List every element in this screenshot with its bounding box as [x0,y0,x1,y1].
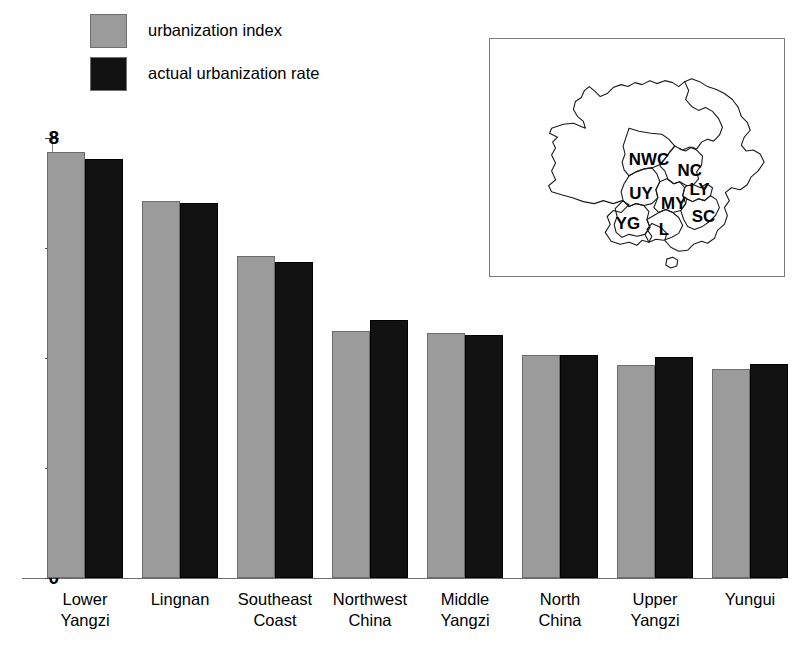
map-label-nwc: NWC [629,150,669,169]
x-axis-line [22,578,782,579]
bar [522,355,560,578]
map-label-nc: NC [677,161,701,180]
bar [180,203,218,578]
map-svg: NWCNCUYLYMYSCYGL [490,39,784,276]
map-label-yg: YG [616,214,640,233]
bar [332,331,370,579]
map-outline-paths [549,79,765,268]
map-label-ly: LY [690,180,710,199]
bar [617,365,655,578]
y-tick-0: 0 [0,578,59,579]
bar [465,335,503,578]
chart-figure: urbanization index actual urbanization r… [0,0,800,655]
map-label-sc: SC [692,207,715,226]
x-axis-label: Yungui [685,589,800,610]
bar [275,262,313,578]
map-label-l: L [659,220,669,239]
bar [142,201,180,578]
y-tick-8: 8 [0,138,59,139]
bar [560,355,598,578]
bar [712,369,750,578]
inset-map-china: NWCNCUYLYMYSCYGL [489,38,785,277]
bar [85,159,123,578]
bar [370,320,408,579]
map-region-labels: NWCNCUYLYMYSCYGL [616,150,715,238]
y-tick-label: 8 [25,128,59,147]
bar [750,364,788,579]
map-label-uy: UY [629,184,652,203]
bar [655,357,693,578]
bar [47,152,85,578]
map-label-my: MY [661,194,686,213]
bar [427,333,465,578]
bar [237,256,275,578]
